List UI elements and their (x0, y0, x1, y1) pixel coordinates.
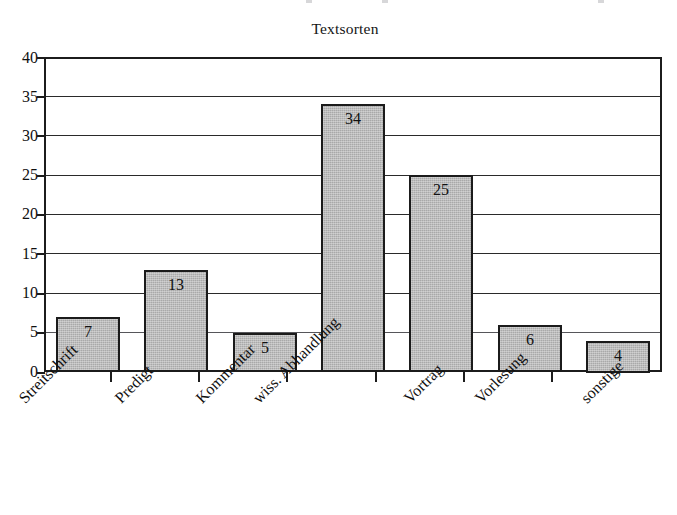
x-axis-label-wiss-abhandlung: wiss. Abhandlung (250, 314, 342, 406)
x-axis-label-sonstige: sonstige (578, 358, 626, 406)
x-axis-category-labels: Streitschrift Predigt Kommentar wiss. Ab… (0, 0, 677, 515)
bar-chart-figure: Textsorten 40 35 30 25 20 15 10 5 0 7 13 (0, 0, 677, 515)
x-axis-label-vortrag: Vortrag (401, 361, 446, 406)
x-axis-label-kommentar: Kommentar (193, 341, 258, 406)
x-axis-label-predigt: Predigt (112, 362, 156, 406)
x-axis-label-streitschrift: Streitschrift (16, 342, 81, 407)
x-axis-label-vorlesung: Vorlesung (472, 349, 529, 406)
